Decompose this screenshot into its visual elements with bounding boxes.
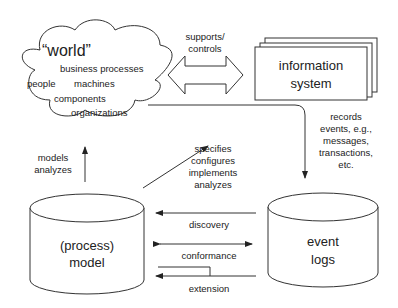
conformance-label: conformance xyxy=(182,250,237,261)
world-item: organizations xyxy=(71,107,128,118)
svg-text:logs: logs xyxy=(311,252,335,267)
svg-text:etc.: etc. xyxy=(338,159,353,170)
extension-input-line xyxy=(158,267,210,276)
svg-text:specifies: specifies xyxy=(195,143,232,154)
svg-text:analyzes: analyzes xyxy=(34,164,72,175)
specifies-label: specifies configures implements analyzes xyxy=(189,143,238,190)
process-model-cylinder: (process) model xyxy=(30,194,144,294)
svg-text:information: information xyxy=(279,58,343,73)
svg-text:events, e.g.,: events, e.g., xyxy=(320,123,372,134)
svg-text:models: models xyxy=(38,152,69,163)
svg-text:records: records xyxy=(330,111,362,122)
svg-text:messages,: messages, xyxy=(323,135,369,146)
world-cloud: “world” business processes people machin… xyxy=(22,20,172,118)
extension-label: extension xyxy=(189,283,230,294)
world-item: machines xyxy=(74,78,115,89)
information-system: information system xyxy=(255,38,377,100)
svg-text:transactions,: transactions, xyxy=(319,147,373,158)
records-label: records events, e.g., messages, transact… xyxy=(319,111,373,170)
world-item: people xyxy=(27,78,56,89)
svg-text:supports/: supports/ xyxy=(185,31,224,42)
event-logs-cylinder: event logs xyxy=(268,193,378,287)
svg-text:model: model xyxy=(69,255,105,270)
world-item: components xyxy=(54,93,106,104)
world-item: business processes xyxy=(60,63,144,74)
svg-text:implements: implements xyxy=(189,167,238,178)
svg-text:(process): (process) xyxy=(60,238,114,253)
svg-text:analyzes: analyzes xyxy=(194,179,232,190)
world-title: “world” xyxy=(42,42,91,59)
svg-text:configures: configures xyxy=(191,155,235,166)
svg-text:controls: controls xyxy=(188,43,222,54)
svg-text:event: event xyxy=(307,234,339,249)
supports-controls-arrow: supports/ controls xyxy=(168,31,243,94)
svg-text:system: system xyxy=(290,76,331,91)
process-mining-diagram: “world” business processes people machin… xyxy=(0,0,398,308)
discovery-label: discovery xyxy=(189,219,229,230)
